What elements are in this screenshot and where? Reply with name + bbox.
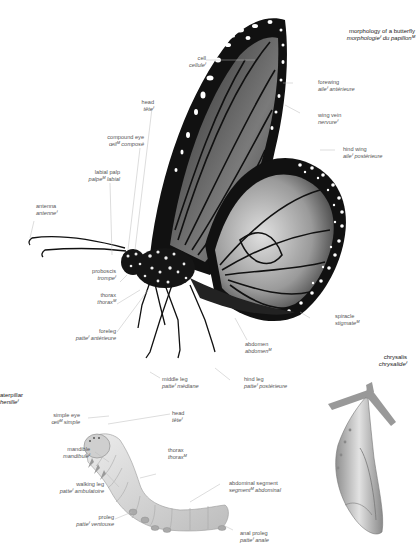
label-antenna: antenna antenneᶠ <box>36 203 57 217</box>
label-proleg: proleg patteᶠ ventouse <box>60 514 114 528</box>
label-walking-leg: walking leg patteᶠ ambulatoire <box>54 481 104 495</box>
label-spiracle: spiracle stigmateᴹ <box>335 313 359 327</box>
label-simple-eye: simple eye œilᴹ simple <box>44 412 80 426</box>
label-forewing: forewing aileᶠ antérieure <box>318 79 355 93</box>
butterfly-title-fr: morphologieᶠ du papillonᴹ <box>347 35 415 42</box>
label-hind-leg: hind leg patteᶠ postérieure <box>244 376 287 390</box>
label-head: head têteᶠ <box>130 99 154 113</box>
label-mandible: mandible mandibuleᶠ <box>56 446 90 460</box>
label-labial-palp: labial palp palpeᴹ labial <box>80 169 120 183</box>
label-caterpillar-head: head têteᶠ <box>172 410 184 424</box>
butterfly-title-en: morphology of a butterfly <box>347 28 415 35</box>
chrysalis-illustration <box>328 382 396 534</box>
chrysalis-title: chrysalis chrysalideᶠ <box>379 354 407 368</box>
label-compound-eye: compound eye œilᴹ composé <box>96 134 144 148</box>
label-proboscis: proboscis trompeᶠ <box>80 268 116 282</box>
label-caterpillar-thorax: thorax thoraxᴹ <box>168 447 187 461</box>
label-abdominal-segment: abdominal segment segmentᴹ abdominal <box>229 480 281 494</box>
caterpillar-title: caterpillar chenilleᶠ <box>0 392 23 406</box>
label-wing-vein: wing vein nervureᶠ <box>318 112 341 126</box>
label-anal-proleg: anal proleg patteᶠ anale <box>240 530 269 544</box>
label-thorax: thorax thoraxᴹ <box>80 292 116 306</box>
illustration <box>0 0 419 546</box>
label-abdomen: abdomen abdomenᴹ <box>245 341 271 355</box>
label-cell: cell celluleᶠ <box>176 55 206 69</box>
label-middle-leg: middle leg patteᶠ médiane <box>162 376 199 390</box>
butterfly-title: morphology of a butterfly morphologieᶠ d… <box>347 28 415 42</box>
label-foreleg: foreleg patteᶠ antérieure <box>60 328 116 342</box>
label-hind-wing: hind wing aileᶠ postérieure <box>343 146 382 160</box>
